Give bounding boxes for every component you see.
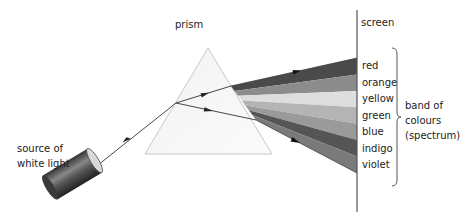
band-label-line3: (spectrum) [405, 128, 460, 143]
brace-icon [392, 48, 401, 186]
band-label-line1: band of [405, 98, 460, 113]
source-label-line2: white light [17, 158, 70, 170]
color-label-orange: orange [362, 77, 397, 89]
color-label-red: red [362, 60, 378, 72]
band-label-line2: colours [405, 113, 460, 128]
source-label: source of white light [17, 143, 70, 170]
prism-dispersion-diagram [0, 0, 461, 218]
color-label-blue: blue [362, 126, 384, 138]
spectrum-bands [231, 58, 357, 173]
color-label-indigo: indigo [362, 143, 393, 155]
color-label-green: green [362, 110, 391, 122]
band-label: band of colours (spectrum) [405, 98, 460, 143]
color-label-violet: violet [362, 159, 390, 171]
color-label-yellow: yellow [362, 93, 394, 105]
prism-label: prism [175, 19, 203, 31]
screen-label: screen [361, 17, 394, 29]
source-label-line1: source of [17, 143, 70, 155]
